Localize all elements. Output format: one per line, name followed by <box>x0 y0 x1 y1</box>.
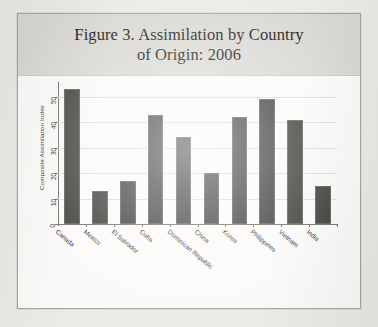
x-axis-tick-label: India <box>306 228 321 242</box>
y-axis-tick-label: 50 <box>50 97 57 104</box>
bar <box>120 181 136 224</box>
bar <box>176 137 192 224</box>
y-axis-tick-label: 40 <box>50 122 57 129</box>
x-axis-tick <box>114 224 115 227</box>
x-axis-tick <box>142 224 143 227</box>
bar <box>259 99 275 224</box>
x-axis-tick-label: El Salvador <box>110 228 140 254</box>
chart-area: Composite Assimilation Index 01020304050… <box>18 76 360 308</box>
y-axis-tick-label: 20 <box>50 173 57 180</box>
x-axis-tick <box>309 224 310 227</box>
plot-region: 01020304050 CanadaMexicoEl SalvadorCubaD… <box>58 84 337 224</box>
figure-title: Figure 3. Assimilation by Country of Ori… <box>62 25 315 65</box>
bar <box>232 117 248 224</box>
x-axis-tick <box>225 224 226 227</box>
bar <box>148 115 164 224</box>
x-axis-tick-label: Mexico <box>82 228 102 246</box>
x-axis-tick <box>281 224 282 227</box>
bar <box>287 120 303 224</box>
figure-title-band: Figure 3. Assimilation by Country of Ori… <box>18 14 360 76</box>
figure-title-line-1: Figure 3. Assimilation by Country <box>74 25 303 44</box>
x-axis-tick-label: Cuba <box>138 228 154 243</box>
y-axis-tick-label: 30 <box>50 148 57 155</box>
x-axis-tick <box>337 224 338 227</box>
bar <box>64 89 80 224</box>
bar <box>204 173 220 224</box>
figure-container: Figure 3. Assimilation by Country of Ori… <box>17 13 361 309</box>
y-axis-line <box>58 82 59 226</box>
x-axis-tick-label: Korea <box>222 228 240 244</box>
figure-title-line-2: of Origin: 2006 <box>74 45 303 65</box>
x-axis-tick <box>198 224 199 227</box>
bar <box>315 186 331 224</box>
x-axis-tick-label: China <box>194 228 211 244</box>
gridline <box>58 97 337 98</box>
x-axis-tick-label: Canada <box>54 228 76 248</box>
y-axis-title: Composite Assimilation Index <box>38 83 45 213</box>
scanned-page: Figure 3. Assimilation by Country of Ori… <box>0 0 378 327</box>
x-axis-tick-label: Vietnam <box>278 228 300 248</box>
bar <box>92 191 108 224</box>
x-axis-tick-label: Dominican Republic <box>166 228 214 270</box>
y-axis-tick-label: 0 <box>50 224 57 228</box>
y-axis-tick-label: 10 <box>50 199 57 206</box>
x-axis-tick-label: Philippines <box>250 228 278 253</box>
